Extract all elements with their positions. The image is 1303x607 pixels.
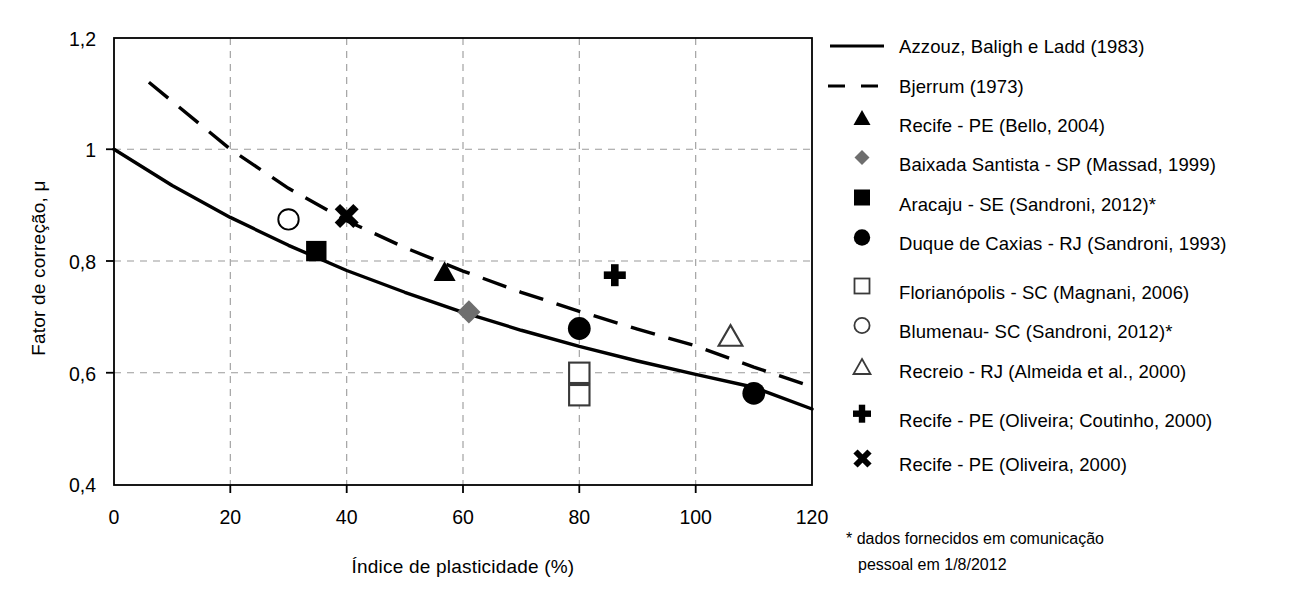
chart-canvas: 1,2 1 0,8 0,6 0,4 0 20 40 60 80 100 120 …	[0, 0, 1303, 607]
canvas-background	[0, 0, 1303, 607]
legend-marker-square-filled	[854, 190, 870, 206]
x-tick-label: 120	[796, 506, 829, 528]
x-tick-label: 20	[219, 506, 241, 528]
legend-entry-label[interactable]: Azzouz, Baligh e Ladd (1983)	[899, 36, 1145, 57]
datapoint-square-open	[569, 385, 589, 405]
y-tick-label: 0,8	[69, 251, 96, 273]
footnote-line-2: pessoal em 1/8/2012	[858, 556, 1007, 573]
x-tick-label: 80	[568, 506, 590, 528]
legend-entry-label[interactable]: Recreio - RJ (Almeida et al., 2000)	[899, 361, 1186, 382]
legend-entry-label[interactable]: Blumenau- SC (Sandroni, 2012)*	[899, 321, 1172, 342]
legend-marker-circle-filled	[854, 229, 870, 245]
legend-entry-label[interactable]: Baixada Santista - SP (Massad, 1999)	[899, 154, 1216, 175]
legend-marker-square-open	[855, 279, 870, 294]
x-axis-title: Índice de plasticidade (%)	[352, 556, 575, 577]
legend-entry-label[interactable]: Duque de Caxias - RJ (Sandroni, 1993)	[899, 233, 1227, 254]
y-tick-label: 0,4	[69, 474, 96, 496]
datapoint-circle-filled	[742, 382, 765, 405]
datapoint-circle-filled	[568, 317, 591, 340]
y-axis-title: Fator de correção, μ	[28, 180, 49, 355]
legend-marker-circle-open	[854, 318, 869, 333]
x-tick-label: 60	[452, 506, 474, 528]
legend-entry-label[interactable]: Florianópolis - SC (Magnani, 2006)	[899, 282, 1189, 303]
legend-entry-label[interactable]: Recife - PE (Oliveira, 2000)	[899, 454, 1127, 475]
x-tick-label: 40	[336, 506, 358, 528]
datapoint-square-filled	[306, 241, 326, 261]
y-tick-label: 1	[85, 139, 96, 161]
datapoint-circle-open	[278, 209, 298, 229]
legend-entry-label[interactable]: Aracaju - SE (Sandroni, 2012)*	[899, 194, 1156, 215]
legend-entry-label[interactable]: Bjerrum (1973)	[899, 76, 1024, 97]
x-tick-label: 0	[109, 506, 120, 528]
y-tick-label: 0,6	[69, 363, 96, 385]
datapoint-square-open	[569, 363, 589, 383]
x-tick-label: 100	[679, 506, 712, 528]
legend-entry-label[interactable]: Recife - PE (Bello, 2004)	[899, 115, 1105, 136]
footnote-line-1: * dados fornecidos em comunicação	[846, 530, 1104, 547]
legend-entry-label[interactable]: Recife - PE (Oliveira; Coutinho, 2000)	[899, 410, 1212, 431]
y-tick-label: 1,2	[69, 28, 96, 50]
figure-root: 1,2 1 0,8 0,6 0,4 0 20 40 60 80 100 120 …	[0, 0, 1303, 607]
